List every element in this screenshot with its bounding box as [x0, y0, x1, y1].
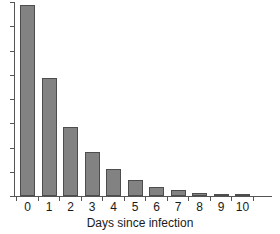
bar [171, 190, 186, 196]
x-axis-title: Days since infection [0, 216, 280, 230]
x-axis-spine [14, 196, 272, 197]
bar-chart-figure: 012345678910 Days since infection [0, 0, 280, 234]
x-tick-label-7: 7 [167, 200, 189, 214]
x-axis-tick-labels: 012345678910 [14, 200, 272, 215]
bar [85, 152, 100, 196]
x-tick-label-6: 6 [146, 200, 168, 214]
bar-slot [149, 2, 164, 196]
bar [42, 78, 57, 196]
bar [235, 194, 250, 196]
bar [192, 193, 207, 196]
bar-slot [128, 2, 143, 196]
x-tick-label-1: 1 [38, 200, 60, 214]
bar-slot [85, 2, 100, 196]
bar-slot [214, 2, 229, 196]
x-tick-label-3: 3 [81, 200, 103, 214]
bar [214, 194, 229, 196]
x-tick-label-9: 9 [210, 200, 232, 214]
bar [20, 5, 35, 196]
x-tick-label-5: 5 [124, 200, 146, 214]
bar-slot [42, 2, 57, 196]
bar-slot [106, 2, 121, 196]
bar [63, 127, 78, 196]
bar-slot [63, 2, 78, 196]
bar-slot [20, 2, 35, 196]
bar [149, 187, 164, 196]
x-tick-label-10: 10 [232, 200, 254, 214]
y-tick [10, 196, 14, 197]
bar-slot [235, 2, 250, 196]
x-tick-label-4: 4 [103, 200, 125, 214]
bar [106, 169, 121, 196]
x-tick-label-0: 0 [17, 200, 39, 214]
x-tick-label-8: 8 [189, 200, 211, 214]
bar [128, 180, 143, 196]
bar-slot [171, 2, 186, 196]
x-tick-label-2: 2 [60, 200, 82, 214]
bar-slot [192, 2, 207, 196]
bar-series [14, 2, 272, 196]
